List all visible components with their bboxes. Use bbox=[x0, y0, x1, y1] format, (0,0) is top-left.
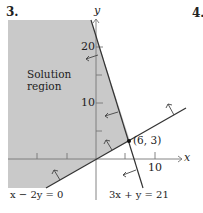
y-tick-label-20: 20 bbox=[81, 41, 95, 52]
problem-number-4: 4. bbox=[192, 7, 203, 19]
region-label-line2: region bbox=[27, 80, 71, 92]
intersection-point bbox=[127, 139, 131, 143]
equation-line1-label: x − 2y = 0 bbox=[10, 190, 64, 200]
solution-region bbox=[8, 20, 130, 188]
y-tick-label-10: 10 bbox=[81, 97, 95, 108]
intersection-label: (6, 3) bbox=[133, 135, 161, 146]
x-axis-label: x bbox=[184, 152, 190, 163]
problem-number-3: 3. bbox=[6, 6, 19, 18]
region-label-line1: Solution bbox=[27, 68, 71, 80]
equation-line2-label: 3x + y = 21 bbox=[109, 190, 169, 200]
y-axis-label: y bbox=[94, 5, 100, 16]
inequality-graph bbox=[0, 0, 203, 213]
solution-region-label: Solution region bbox=[27, 68, 71, 92]
x-tick-label-10: 10 bbox=[148, 162, 162, 173]
